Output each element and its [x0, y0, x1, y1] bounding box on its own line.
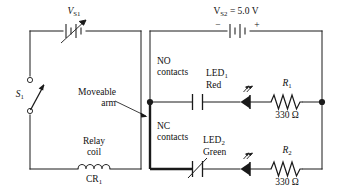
moveable-arm-line1: Moveable [56, 87, 116, 98]
polarity-plus-label: + [251, 20, 263, 31]
nc-contacts-line1: NC [157, 121, 213, 132]
led1-label: LED1 Red [206, 68, 252, 90]
moveable-arm-line2: arm [56, 98, 116, 109]
moveable-arm-pointer-arrow [115, 101, 147, 118]
junction-dot-moveable-arm [147, 99, 153, 105]
junction-dot-right-rail [319, 99, 325, 105]
led2-label: LED2 Green [203, 135, 249, 157]
resistor-r1-label: R1 [271, 78, 303, 90]
switch-s1-symbol[interactable] [27, 77, 44, 113]
circuit-schematic-svg [0, 0, 341, 192]
variable-dc-source-vs1 [61, 20, 86, 43]
resistor-r1-value: 330 Ω [262, 110, 312, 121]
dc-source-vs2-symbol [230, 24, 245, 38]
no-contacts-line1: NO [157, 56, 213, 67]
no-contacts-line2: contacts [157, 67, 213, 78]
led2-color-label: Green [203, 147, 249, 158]
source-vs1-label: VS1 [58, 6, 90, 18]
resistor-r1-symbol [271, 95, 303, 109]
resistor-r2-label: R2 [271, 145, 303, 157]
switch-s1-label: S1 [2, 89, 24, 101]
resistor-r2-value: 330 Ω [262, 177, 312, 188]
relay-coil-line1: Relay [64, 136, 124, 147]
coil-designator-label: CR1 [74, 174, 114, 186]
relay-coil-line2: coil [64, 147, 124, 158]
relay-coil-symbol [78, 164, 110, 169]
resistor-r2-symbol [271, 162, 303, 176]
moveable-arm-annotation: Moveable arm [56, 87, 116, 108]
no-contacts-symbol [193, 94, 203, 110]
relay-coil-label: Relay coil [64, 136, 124, 157]
no-contacts-label: NO contacts [157, 56, 213, 77]
polarity-minus-label: − [212, 20, 224, 31]
circuit-diagram: VS1 S1 Moveable arm Relay coil CR1 VS2 =… [0, 0, 341, 192]
source-vs2-label: VS2 = 5.0 V [195, 6, 277, 18]
led1-color-label: Red [206, 80, 252, 91]
